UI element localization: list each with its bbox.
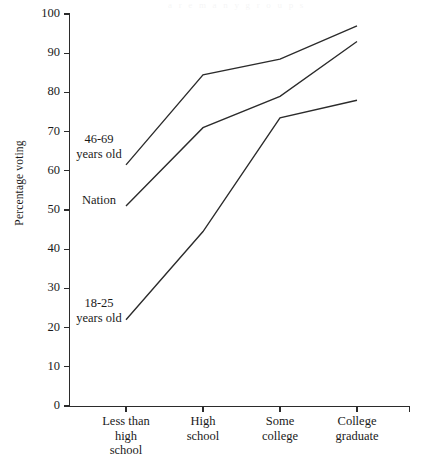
series-label-line: years old xyxy=(60,147,138,162)
series-line-2 xyxy=(126,100,357,320)
series-label-46-69: 46-69years old xyxy=(60,132,138,161)
series-lines xyxy=(126,26,357,320)
series-label-line: 18-25 xyxy=(60,296,138,311)
chart-figure: a r e m a n y g r o u p s Percentage vot… xyxy=(0,0,445,468)
series-line-0 xyxy=(126,26,357,165)
series-label-18-25: 18-25years old xyxy=(60,296,138,325)
series-label-line: Nation xyxy=(60,193,138,208)
series-label-line: years old xyxy=(60,311,138,326)
series-label-line: 46-69 xyxy=(60,132,138,147)
plot-area xyxy=(0,0,445,468)
series-label-nation: Nation xyxy=(60,193,138,208)
